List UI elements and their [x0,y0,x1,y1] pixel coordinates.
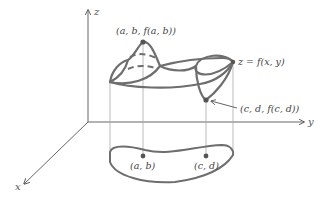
surface [110,42,233,100]
surface-edge-point [231,60,235,64]
domain-point-cd-label: (c, d) [194,160,219,171]
min-point [203,97,208,102]
max-point-label: (a, b, f(a, b)) [116,25,176,36]
axes [24,10,304,184]
x-axis-label: x [15,181,21,192]
min-point-label: (c, d, f(c, d)) [240,103,300,114]
y-axis-label: y [307,116,314,127]
domain-point-ab [141,154,146,159]
z-axis-label: z [93,6,100,17]
domain-point-ab-label: (a, b) [130,160,155,171]
max-point [140,39,145,44]
x-axis [24,122,88,184]
surface-diagram: z y x (a, b, f(a, b)) z = f(x, y) (c, d,… [0,0,330,198]
surface-label: z = f(x, y) [237,56,285,67]
domain-point-cd [204,154,209,159]
